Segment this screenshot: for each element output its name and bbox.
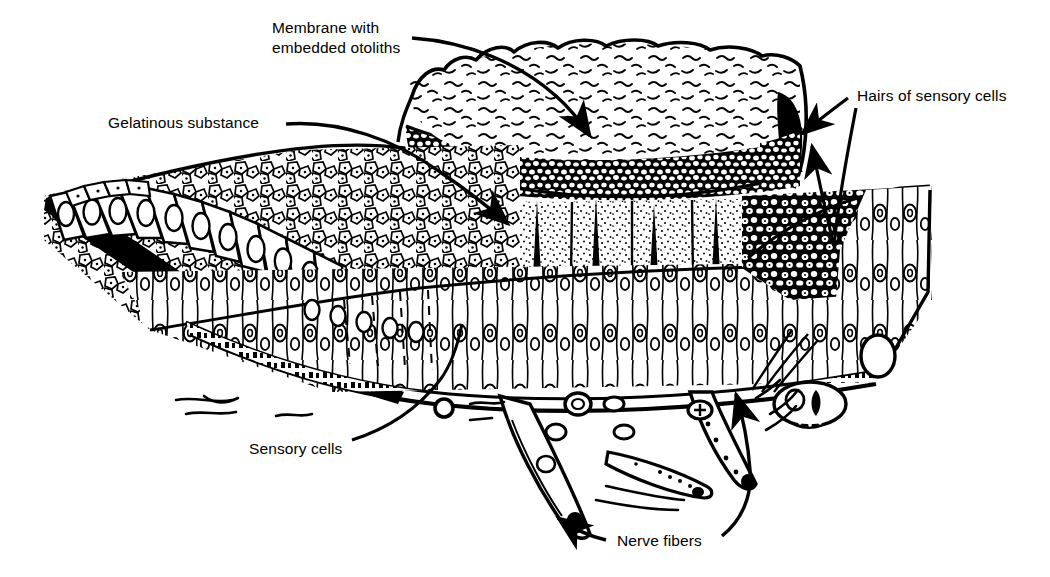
label-hairs-of-sensory-cells: Hairs of sensory cells: [857, 87, 1007, 104]
label-membrane-otoliths-line1: Membrane with: [272, 19, 379, 36]
macula-diagram: Membrane with embedded otoliths Gelatino…: [0, 0, 1050, 577]
sensory-cells-marker: [435, 399, 453, 417]
figure-root: Membrane with embedded otoliths Gelatino…: [0, 0, 1050, 577]
label-gelatinous-substance: Gelatinous substance: [108, 114, 259, 131]
label-sensory-cells: Sensory cells: [249, 440, 343, 457]
label-nerve-fibers: Nerve fibers: [617, 532, 702, 549]
label-membrane-otoliths-line2: embedded otoliths: [272, 39, 401, 56]
